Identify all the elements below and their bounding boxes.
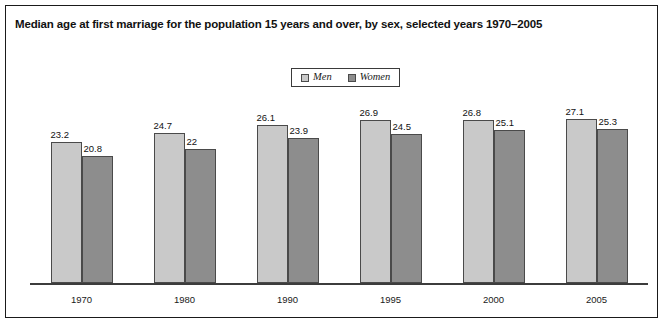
x-axis-tick-1970: 1970 <box>30 294 133 305</box>
plot-area: 23.220.824.72226.123.926.924.526.825.127… <box>6 6 658 318</box>
x-axis-tick-2005: 2005 <box>545 294 648 305</box>
bar-group: 27.125.3 <box>6 6 658 318</box>
x-axis-tick-1980: 1980 <box>133 294 236 305</box>
x-axis-tick-2000: 2000 <box>442 294 545 305</box>
bar-label-women: 25.3 <box>599 117 618 127</box>
x-axis-tick-1995: 1995 <box>339 294 442 305</box>
x-axis-tick-1990: 1990 <box>236 294 339 305</box>
bar-women <box>597 129 628 283</box>
chart-frame: Median age at first marriage for the pop… <box>5 5 658 318</box>
bar-men <box>566 119 597 283</box>
bar-label-men: 27.1 <box>566 107 585 117</box>
figure: Median age at first marriage for the pop… <box>0 0 667 320</box>
